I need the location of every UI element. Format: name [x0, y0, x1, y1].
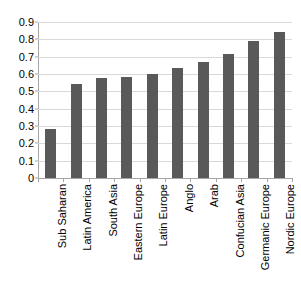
bar-arab — [198, 62, 209, 178]
x-tick-mark-end — [292, 178, 293, 182]
x-label-latin-europe: Latin Europe — [157, 184, 169, 246]
bar-latin-europe — [147, 74, 158, 178]
bar-confucian-asia — [223, 54, 234, 178]
x-axis-tick-marks — [38, 178, 292, 182]
x-tick-mark-5 — [165, 178, 166, 182]
y-tick-label-0.8: 0.8 — [0, 34, 34, 45]
x-label-germanic-europe: Germanic Europe — [259, 184, 271, 270]
x-label-eastern-europe: Eastern Europe — [132, 184, 144, 260]
bar-eastern-europe — [121, 77, 132, 178]
bar-germanic-europe — [248, 41, 259, 178]
y-tick-label-0.7: 0.7 — [0, 51, 34, 62]
x-tick-mark-4 — [140, 178, 141, 182]
y-tick-label-0.9: 0.9 — [0, 17, 34, 28]
x-label-confucian-asia: Confucian Asia — [234, 184, 246, 257]
y-tick-label-0.1: 0.1 — [0, 155, 34, 166]
x-tick-mark-6 — [190, 178, 191, 182]
y-tick-label-0.5: 0.5 — [0, 86, 34, 97]
bar-anglo — [172, 68, 183, 178]
y-tick-label-0.2: 0.2 — [0, 138, 34, 149]
x-axis-category-labels: Sub SaharanLatin AmericaSouth AsiaEaster… — [38, 184, 292, 296]
bar-nordic-europe — [274, 32, 285, 178]
x-tick-mark-8 — [241, 178, 242, 182]
x-label-south-asia: South Asia — [107, 184, 119, 237]
x-tick-mark-9 — [267, 178, 268, 182]
x-label-sub-saharan: Sub Saharan — [56, 184, 68, 248]
x-label-anglo: Anglo — [183, 184, 195, 212]
x-label-nordic-europe: Nordic Europe — [284, 184, 296, 254]
x-label-arab: Arab — [208, 184, 220, 207]
x-tick-mark-0 — [38, 178, 39, 182]
x-tick-mark-2 — [89, 178, 90, 182]
y-tick-label-0.3: 0.3 — [0, 121, 34, 132]
bars-layer — [38, 22, 292, 178]
y-tick-label-0: 0 — [0, 173, 34, 184]
bar-latin-america — [71, 84, 82, 178]
bar-south-asia — [96, 78, 107, 178]
bar-sub-saharan — [45, 129, 56, 178]
x-label-latin-america: Latin America — [81, 184, 93, 251]
y-axis-tick-labels: 00.10.20.30.40.50.60.70.80.9 — [0, 0, 34, 190]
x-tick-mark-1 — [63, 178, 64, 182]
y-tick-label-0.6: 0.6 — [0, 69, 34, 80]
y-tick-label-0.4: 0.4 — [0, 103, 34, 114]
x-tick-mark-7 — [216, 178, 217, 182]
x-tick-mark-3 — [114, 178, 115, 182]
bar-chart-figure: 00.10.20.30.40.50.60.70.80.9 Sub Saharan… — [0, 0, 301, 298]
